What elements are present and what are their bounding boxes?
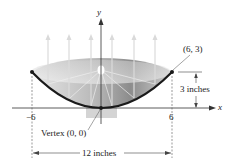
endpoint-label: (6, 3) — [183, 45, 203, 54]
height-label: 3 inches — [180, 85, 210, 94]
vertex-point — [99, 106, 103, 110]
ray-arrowheads — [46, 34, 158, 40]
tick-right: 6 — [169, 113, 174, 122]
x-axis-label: x — [218, 103, 222, 112]
y-axis-label: y — [97, 8, 101, 17]
endpoint-leader — [173, 55, 190, 70]
vertex-label: Vertex (0, 0) — [41, 129, 86, 138]
right-endpoint — [170, 70, 174, 74]
left-endpoint — [30, 70, 34, 74]
y-axis-arrow — [99, 18, 104, 25]
tick-left: −6 — [26, 113, 36, 122]
reflector-diagram — [0, 0, 233, 164]
x-axis-arrow — [209, 106, 216, 111]
width-label: 12 inches — [82, 149, 116, 158]
